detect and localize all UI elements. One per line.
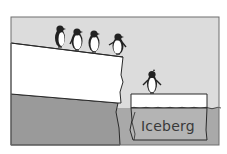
illustration: Iceberg — [0, 0, 227, 154]
iceberg-top — [131, 94, 207, 108]
iceberg-label: Iceberg — [141, 118, 195, 134]
